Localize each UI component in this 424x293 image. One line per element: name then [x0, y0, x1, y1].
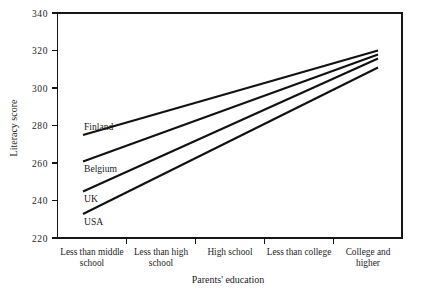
series-lines — [83, 51, 378, 215]
x-tick-label-0-line2: school — [80, 258, 105, 268]
series-line-finland — [83, 51, 378, 136]
series-label-usa: USA — [84, 216, 103, 227]
x-tick-label-1-line2: school — [149, 258, 174, 268]
series-line-usa — [83, 68, 378, 215]
series-label-finland: Finland — [84, 121, 114, 132]
y-tick-label-340: 340 — [32, 9, 48, 19]
x-axis-ticks — [127, 238, 334, 244]
x-tick-label-4-line1: College and — [346, 247, 391, 257]
x-tick-label-4-line2: higher — [356, 258, 381, 268]
series-label-belgium: Belgium — [84, 163, 118, 174]
y-axis-tick-labels: 340 320 300 280 260 240 220 — [32, 9, 48, 244]
y-tick-label-220: 220 — [32, 234, 48, 244]
y-tick-label-300: 300 — [32, 84, 48, 94]
x-tick-label-3-line1: Less than college — [267, 247, 332, 257]
y-axis-title: Literacy score — [8, 99, 19, 156]
x-tick-label-1-line1: Less than high — [134, 247, 189, 257]
x-axis-title: Parents' education — [192, 274, 265, 285]
literacy-score-line-chart: 340 320 300 280 260 240 220 Less than mi… — [0, 0, 424, 293]
series-line-belgium — [83, 55, 378, 162]
y-axis-ticks — [52, 13, 58, 238]
figure-container: 340 320 300 280 260 240 220 Less than mi… — [0, 0, 424, 293]
x-tick-label-2-line1: High school — [207, 247, 253, 257]
x-tick-label-0-line1: Less than middle — [60, 247, 124, 257]
x-axis-tick-labels: Less than middle school Less than high s… — [60, 247, 390, 268]
series-label-uk: UK — [84, 193, 98, 204]
y-tick-label-240: 240 — [32, 196, 48, 206]
y-tick-label-280: 280 — [32, 121, 48, 131]
series-line-uk — [83, 59, 378, 192]
y-tick-label-260: 260 — [32, 159, 48, 169]
y-tick-label-320: 320 — [32, 46, 48, 56]
